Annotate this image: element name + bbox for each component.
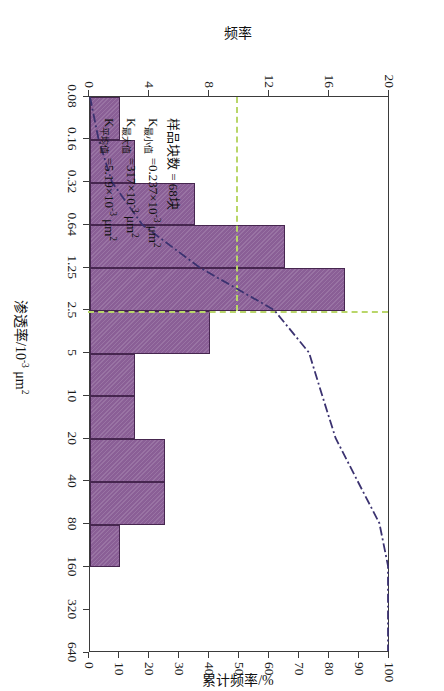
- secondary-y-axis-tickmark: [149, 652, 150, 658]
- k-min-symbol: K: [146, 118, 161, 127]
- x-axis-tickmark: [83, 224, 89, 225]
- secondary-y-axis-tick-label: 90: [351, 662, 367, 691]
- secondary-y-axis-title-text: 累计频率/%: [202, 673, 274, 688]
- y-axis-tickmark: [269, 90, 270, 96]
- x-axis-title-unit: μm: [13, 368, 28, 390]
- annotation-k-min: K最小值 =0.237×10-3 μm2: [141, 118, 163, 248]
- y-axis-tick-label: 12: [261, 50, 277, 88]
- k-max-exponent: -3: [130, 205, 140, 213]
- x-axis-title-unit-exponent: 2: [20, 390, 30, 395]
- secondary-y-axis-tickmark: [329, 652, 330, 658]
- x-axis-tick-label: 640: [64, 642, 80, 662]
- x-axis-tick-label: 10: [64, 389, 80, 403]
- y-axis-tickmark: [329, 90, 330, 96]
- x-axis-tick-label: 1.25: [64, 255, 80, 279]
- x-axis-tick-label: 0.08: [64, 84, 80, 108]
- y-axis-tickmark: [149, 90, 150, 96]
- x-axis-tickmark: [83, 138, 89, 139]
- secondary-y-axis-tickmark: [89, 652, 90, 658]
- k-avg-subscript: 平均值: [99, 127, 109, 154]
- x-axis-tickmark: [83, 395, 89, 396]
- x-axis-tickmark: [83, 480, 89, 481]
- k-min-value: =0.237×10: [146, 154, 161, 214]
- x-axis-tick-label: 5: [64, 349, 80, 356]
- k-min-unit-exponent: 2: [152, 243, 162, 248]
- secondary-y-axis-tick-label: 30: [171, 662, 187, 691]
- x-axis-title-exponent: -3: [20, 360, 30, 368]
- x-axis-tick-label: 0.32: [64, 170, 80, 194]
- x-axis-tick-label: 0.64: [64, 212, 80, 236]
- secondary-y-axis-tick-label: 100: [381, 662, 397, 691]
- x-axis-tickmark: [83, 309, 89, 310]
- y-axis-tick-label: 8: [201, 50, 217, 88]
- x-axis-title: 渗透率/10-3 μm2: [12, 300, 32, 394]
- annotation-k-avg: K平均值 =5.19×10-3 μm2: [97, 118, 119, 248]
- y-axis-tick-label: 20: [381, 50, 397, 88]
- x-axis-tick-label: 80: [64, 517, 80, 531]
- k-min-subscript: 最小值: [143, 127, 153, 154]
- y-axis-tick-label: 0: [81, 50, 97, 88]
- k-max-unit: μm: [124, 213, 139, 233]
- secondary-y-axis-tickmark: [239, 652, 240, 658]
- x-axis-tick-label: 160: [64, 556, 80, 576]
- x-axis-title-text: 渗透率/10: [13, 300, 28, 360]
- y-axis-tickmark: [89, 90, 90, 96]
- secondary-y-axis-tickmark: [299, 652, 300, 658]
- secondary-y-axis-tick-label: 0: [81, 662, 97, 691]
- secondary-y-axis-tick-label: 10: [111, 662, 127, 691]
- y-axis-tickmark: [389, 90, 390, 96]
- annotation-sample-count-text: 样品块数 = 68块: [166, 118, 181, 210]
- x-axis-tickmark: [83, 352, 89, 353]
- secondary-y-axis-tickmark: [389, 652, 390, 658]
- k-avg-symbol: K: [102, 118, 117, 127]
- y-axis-tickmark: [209, 90, 210, 96]
- secondary-y-axis-tickmark: [209, 652, 210, 658]
- secondary-y-axis-tick-label: 70: [291, 662, 307, 691]
- y-axis-title: 频率: [224, 22, 252, 42]
- k-max-unit-exponent: 2: [130, 233, 140, 238]
- x-axis-tick-label: 320: [64, 599, 80, 619]
- annotation-k-max: K最大值 =317×10-3 μm2: [119, 118, 141, 248]
- k-max-subscript: 最大值: [121, 127, 131, 154]
- secondary-y-axis-tick-label: 20: [141, 662, 157, 691]
- k-avg-unit-exponent: 2: [108, 236, 118, 241]
- k-avg-unit: μm: [102, 216, 117, 236]
- x-axis-tickmark: [83, 438, 89, 439]
- k-avg-exponent: -3: [108, 208, 118, 216]
- k-max-value: =317×10: [124, 154, 139, 204]
- x-axis-tickmark: [83, 267, 89, 268]
- x-axis-tick-label: 2.5: [64, 301, 80, 318]
- annotation-sample-count: 样品块数 = 68块: [163, 118, 182, 248]
- secondary-y-axis-tickmark: [269, 652, 270, 658]
- y-axis-tick-label: 4: [141, 50, 157, 88]
- secondary-y-axis-tickmark: [179, 652, 180, 658]
- x-axis-tick-label: 40: [64, 474, 80, 488]
- x-axis-tickmark: [83, 566, 89, 567]
- x-axis-tickmark: [83, 523, 89, 524]
- y-axis-tick-label: 16: [321, 50, 337, 88]
- secondary-y-axis-tickmark: [119, 652, 120, 658]
- x-axis-tickmark: [83, 181, 89, 182]
- x-axis-tick-label: 20: [64, 431, 80, 445]
- k-min-unit: μm: [146, 222, 161, 242]
- secondary-y-axis-tick-label: 80: [321, 662, 337, 691]
- x-axis-tick-label: 0.16: [64, 127, 80, 151]
- statistics-annotation: 样品块数 = 68块 K最小值 =0.237×10-3 μm2 K最大值 =31…: [97, 118, 182, 248]
- secondary-y-axis-title: 累计频率/%: [202, 669, 274, 689]
- x-axis-tickmark: [83, 609, 89, 610]
- y-axis-title-text: 频率: [224, 26, 252, 41]
- secondary-y-axis-tickmark: [359, 652, 360, 658]
- k-avg-value: =5.19×10: [102, 154, 117, 208]
- k-max-symbol: K: [124, 118, 139, 127]
